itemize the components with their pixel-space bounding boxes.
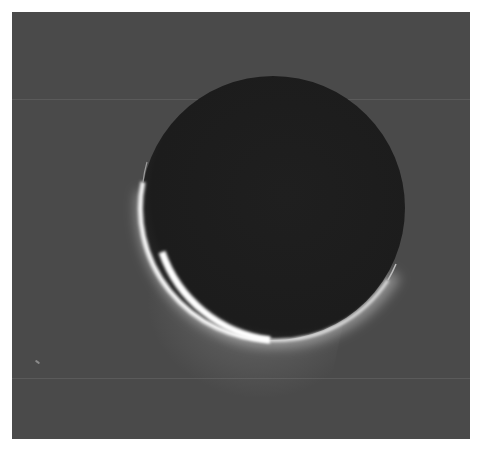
moon-photograph <box>12 12 470 439</box>
moon-disk <box>12 12 470 439</box>
